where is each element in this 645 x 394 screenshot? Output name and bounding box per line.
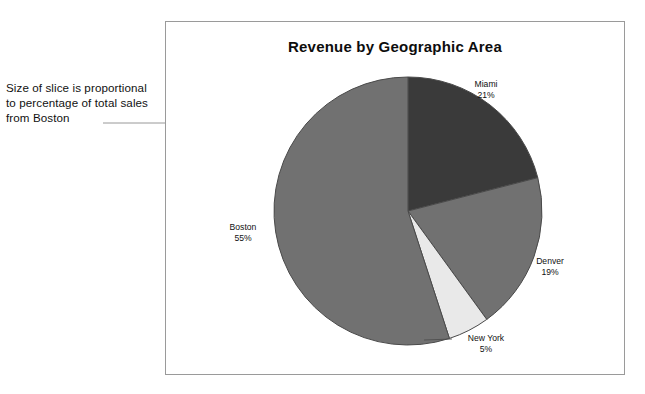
slice-label-miami-name: Miami	[475, 79, 498, 89]
slice-label-boston: Boston 55%	[212, 222, 274, 244]
slice-label-boston-value: 55%	[212, 233, 274, 244]
slice-label-new-york: New York 5%	[455, 333, 517, 355]
slice-label-new-york-value: 5%	[455, 344, 517, 355]
slice-label-denver-name: Denver	[536, 256, 564, 266]
slice-label-denver: Denver 19%	[519, 256, 581, 278]
slice-label-miami-value: 21%	[455, 90, 517, 101]
slice-label-denver-value: 19%	[519, 267, 581, 278]
slice-label-new-york-name: New York	[468, 333, 504, 343]
chart-title: Revenue by Geographic Area	[166, 38, 624, 55]
chart-frame: Revenue by Geographic Area	[165, 21, 625, 375]
slice-label-boston-name: Boston	[230, 222, 257, 232]
screenshot-canvas: Size of slice is proportional to percent…	[0, 0, 645, 394]
slice-label-miami: Miami 21%	[455, 79, 517, 101]
